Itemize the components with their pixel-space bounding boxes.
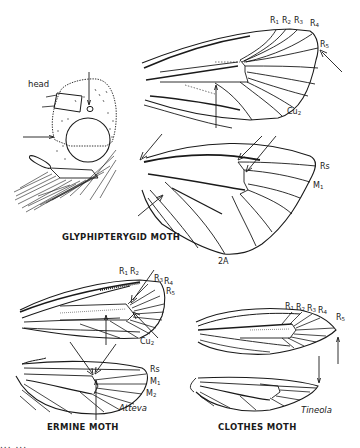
vein-sub: 2	[298, 110, 302, 116]
vein-sub: 1	[157, 380, 161, 386]
palp	[28, 154, 52, 171]
clothes-vein-r1: R1	[285, 303, 294, 312]
vein-letter: M	[150, 377, 157, 386]
ermine-vein-r5: R5	[166, 288, 175, 297]
vein-letter: Cu	[140, 337, 151, 346]
hindwing-arrow-2	[248, 136, 276, 170]
clothes-forewing-outline	[196, 309, 336, 355]
vein-sub: 5	[342, 316, 346, 322]
glyphipterygid-forewing	[142, 29, 342, 128]
vein-letter: M	[313, 181, 320, 190]
head-label: head	[28, 80, 49, 89]
hindwing-arrow-1	[240, 136, 262, 158]
vein-sub: 3	[160, 277, 164, 283]
vein-label-r1: R1	[270, 17, 279, 26]
vein-sub: 2	[302, 306, 306, 312]
ermine-hw-arrow-left	[70, 342, 92, 373]
vein-label-2a: 2A	[218, 258, 229, 266]
ermine-vein-m2: M2	[146, 390, 156, 399]
vein-sub: 1	[291, 305, 295, 311]
vein-sub: 3	[300, 19, 304, 25]
cut-off-body-text: ... ...	[0, 440, 360, 448]
vein-sub: 4	[316, 22, 320, 28]
ermine-hw-arrow-right	[96, 344, 116, 372]
ermine-vein-r2: R2	[130, 268, 139, 277]
vein-letter: M	[146, 389, 153, 398]
clothes-vein-r4: R4	[318, 307, 327, 316]
glyphipterygid-caption: GLYPHIPTERYGID MOTH	[62, 232, 180, 242]
vein-label-cu2: Cu2	[287, 108, 301, 117]
vein-sub: 4	[170, 280, 174, 286]
vein-sub: 2	[153, 392, 157, 398]
ermine-vein-rs: Rs	[150, 366, 160, 374]
clothes-hindwing	[190, 377, 318, 411]
glyphipterygid-head-drawing	[14, 72, 116, 212]
clothes-forewing	[196, 309, 340, 384]
vein-label-rs: Rs	[320, 163, 330, 171]
clothes-vein-r5: R5	[336, 314, 345, 323]
ermine-vein-r3: R3	[154, 275, 163, 284]
vein-letter: Cu	[287, 107, 298, 116]
clothes-vein-r3: R3	[307, 305, 316, 314]
ermine-vein-r4: R4	[164, 278, 173, 287]
vein-label-r4: R4	[310, 20, 319, 29]
wing-venation-figure	[0, 0, 360, 448]
vein-sub: 2	[288, 19, 292, 25]
vein-sub: 1	[320, 184, 324, 190]
vein-label-r3: R3	[294, 17, 303, 26]
ermine-vein-r1: R1	[119, 268, 128, 277]
vein-sub: 5	[326, 43, 330, 49]
vein-sub: 3	[313, 307, 317, 313]
compound-eye	[66, 118, 110, 162]
vein-sub: 5	[172, 290, 176, 296]
hindwing-arrow-anal	[138, 196, 162, 216]
ermine-vein-cu2: Cu2	[140, 338, 154, 347]
clothes-vein-r2: R2	[296, 304, 305, 313]
vein-label-m1: M1	[313, 182, 323, 191]
ermine-forewing	[20, 270, 165, 345]
vein-sub: 1	[276, 19, 280, 25]
vein-sub: 2	[151, 340, 155, 346]
vein-sub: 1	[125, 270, 129, 276]
ocellus	[87, 106, 93, 111]
clothes-genus: Tineola	[301, 405, 332, 415]
vein-sub: 2	[136, 270, 140, 276]
vein-label-r5: R5	[320, 41, 329, 50]
vein-label-r2: R2	[282, 17, 291, 26]
ermine-genus: Atteva	[119, 403, 147, 413]
apex-arrow	[322, 52, 342, 72]
ermine-vein-m1: M1	[150, 378, 160, 387]
antenna-scape	[54, 93, 82, 112]
stipple	[57, 89, 113, 160]
vein-sub: 4	[324, 309, 328, 315]
ermine-caption: ERMINE MOTH	[47, 422, 119, 432]
head-outline	[52, 79, 116, 146]
clothes-caption: CLOTHES MOTH	[218, 422, 297, 432]
